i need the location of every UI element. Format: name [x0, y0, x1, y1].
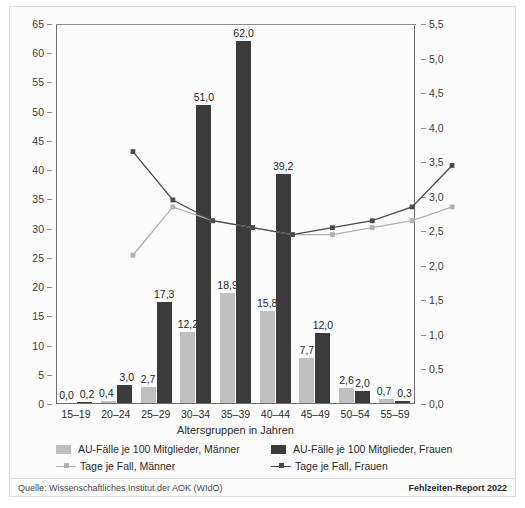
- bar-group: 18,962,0: [216, 24, 256, 403]
- x-axis-tick-label: 15–19: [56, 406, 96, 424]
- bar-maenner[interactable]: 15,8: [260, 311, 275, 403]
- legend-label-tage-je-fall-maenner: Tage je Fall, Männer: [80, 460, 175, 472]
- x-axis-category-labels: 15–1920–2425–2930–3435–3940–4445–4950–54…: [56, 406, 415, 424]
- bar-value-label: 2,7: [141, 374, 156, 385]
- left-axis-tick-label: 55: [32, 77, 44, 88]
- bar-maenner[interactable]: 2,6: [339, 388, 354, 403]
- bar-value-label: 0,0: [59, 390, 74, 401]
- legend-item-au-faelle-frauen: AU-Fälle je 100 Mitglieder, Frauen: [271, 443, 486, 455]
- right-axis-tick-label: 4,5: [429, 88, 444, 99]
- bar-frauen[interactable]: 12,0: [315, 333, 330, 403]
- bar-value-label: 7,7: [300, 345, 315, 356]
- right-axis-tick-mark: [421, 24, 426, 25]
- right-axis-tick-label: 2,0: [429, 261, 444, 272]
- legend-label-tage-je-fall-frauen: Tage je Fall, Frauen: [295, 460, 388, 472]
- bar-group: 0,43,0: [97, 24, 137, 403]
- bar-frauen[interactable]: 17,3: [157, 302, 172, 403]
- right-axis-tick-mark: [421, 300, 426, 301]
- bar-value-label: 12,0: [313, 320, 333, 331]
- legend-item-tage-je-fall-maenner: Tage je Fall, Männer: [56, 460, 271, 472]
- left-axis-tick-label: 5: [38, 370, 44, 381]
- legend-swatch-maenner-bar: [56, 445, 71, 454]
- bar-value-label: 39,2: [273, 161, 293, 172]
- x-axis-tick-label: 35–39: [216, 406, 256, 424]
- right-axis-tick-mark: [421, 197, 426, 198]
- left-axis-tick-label: 45: [32, 136, 44, 147]
- right-axis-tick-mark: [421, 404, 426, 405]
- left-axis-tick-mark: [47, 199, 52, 200]
- x-axis-tick-label: 20–24: [96, 406, 136, 424]
- chart-legend: AU-Fälle je 100 Mitglieder, Männer AU-Fä…: [56, 443, 486, 477]
- bar-frauen[interactable]: 3,0: [117, 385, 132, 403]
- source-note: Quelle: Wissenschaftliches Institut der …: [18, 483, 223, 493]
- bar-group: 15,839,2: [255, 24, 295, 403]
- right-axis-tick-label: 4,0: [429, 122, 444, 133]
- left-axis-tick-mark: [47, 141, 52, 142]
- legend-swatch-frauen-line: [271, 462, 291, 471]
- right-axis-tick-label: 0,0: [429, 399, 444, 410]
- legend-item-au-faelle-maenner: AU-Fälle je 100 Mitglieder, Männer: [56, 443, 271, 455]
- bar-maenner[interactable]: 2,7: [141, 387, 156, 403]
- right-axis-tick-mark: [421, 162, 426, 163]
- left-axis-tick-label: 35: [32, 194, 44, 205]
- bar-frauen[interactable]: 39,2: [276, 174, 291, 403]
- right-axis: 0,00,51,01,52,02,53,03,54,04,55,05,5: [419, 24, 465, 404]
- bar-frauen[interactable]: 51,0: [196, 105, 211, 403]
- bar-value-label: 12,2: [178, 319, 198, 330]
- left-axis-tick-mark: [47, 170, 52, 171]
- bar-frauen[interactable]: 0,2: [77, 402, 92, 403]
- right-axis-tick-mark: [421, 231, 426, 232]
- bar-group: 12,251,0: [176, 24, 216, 403]
- bar-frauen[interactable]: 2,0: [355, 391, 370, 403]
- x-axis-tick-label: 45–49: [295, 406, 335, 424]
- right-axis-tick-mark: [421, 59, 426, 60]
- left-axis-tick-mark: [47, 404, 52, 405]
- left-axis-tick-label: 15: [32, 311, 44, 322]
- right-axis-tick-label: 5,5: [429, 19, 444, 30]
- x-axis-tick-label: 50–54: [335, 406, 375, 424]
- bar-maenner[interactable]: 18,9: [220, 293, 235, 403]
- bar-frauen[interactable]: 62,0: [236, 41, 251, 403]
- left-axis-tick-label: 65: [32, 19, 44, 30]
- bar-groups: 0,00,20,43,02,717,312,251,018,962,015,83…: [57, 24, 414, 403]
- bar-value-label: 2,6: [339, 375, 354, 386]
- right-axis-tick-mark: [421, 335, 426, 336]
- figure-footer: Quelle: Wissenschaftliches Institut der …: [9, 478, 516, 497]
- bar-group: 7,712,0: [295, 24, 335, 403]
- left-axis-tick-label: 50: [32, 106, 44, 117]
- chart-figure: 05101520253035404550556065 0,00,51,01,52…: [0, 0, 525, 508]
- bar-maenner[interactable]: 7,7: [299, 358, 314, 403]
- right-axis-tick-mark: [421, 128, 426, 129]
- left-axis-tick-label: 30: [32, 223, 44, 234]
- legend-row-bars: AU-Fälle je 100 Mitglieder, Männer AU-Fä…: [56, 443, 486, 455]
- legend-swatch-frauen-bar: [271, 445, 286, 454]
- bar-group: 0,00,2: [57, 24, 97, 403]
- bar-value-label: 0,3: [397, 388, 412, 399]
- left-axis-tick-mark: [47, 229, 52, 230]
- left-axis-tick-mark: [47, 346, 52, 347]
- left-axis-tick-label: 20: [32, 282, 44, 293]
- left-axis-tick-mark: [47, 82, 52, 83]
- bar-value-label: 15,8: [257, 298, 277, 309]
- right-axis-tick-mark: [421, 266, 426, 267]
- left-axis-tick-label: 60: [32, 48, 44, 59]
- right-axis-tick-label: 1,0: [429, 330, 444, 341]
- bar-maenner[interactable]: 0,4: [101, 401, 116, 403]
- bar-value-label: 18,9: [217, 280, 237, 291]
- bar-value-label: 3,0: [119, 372, 134, 383]
- right-axis-tick-label: 3,5: [429, 157, 444, 168]
- bar-value-label: 0,4: [99, 388, 114, 399]
- x-axis-tick-label: 40–44: [255, 406, 295, 424]
- bar-maenner[interactable]: 12,2: [180, 332, 195, 403]
- bar-maenner[interactable]: 0,7: [379, 399, 394, 403]
- legend-item-tage-je-fall-frauen: Tage je Fall, Frauen: [271, 460, 486, 472]
- left-axis-tick-mark: [47, 316, 52, 317]
- bar-value-label: 0,7: [377, 386, 392, 397]
- right-axis-tick-label: 0,5: [429, 364, 444, 375]
- legend-row-lines: Tage je Fall, Männer Tage je Fall, Fraue…: [56, 460, 486, 472]
- legend-label-au-faelle-frauen: AU-Fälle je 100 Mitglieder, Frauen: [293, 443, 452, 455]
- bar-frauen[interactable]: 0,3: [395, 401, 410, 403]
- left-axis-tick-mark: [47, 287, 52, 288]
- legend-label-au-faelle-maenner: AU-Fälle je 100 Mitglieder, Männer: [78, 443, 240, 455]
- right-axis-tick-mark: [421, 93, 426, 94]
